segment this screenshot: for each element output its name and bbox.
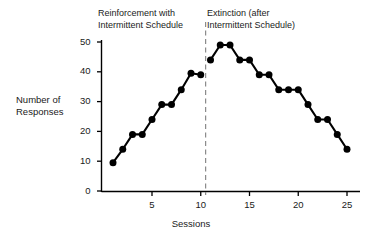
data-point [158,101,165,108]
data-point [217,41,224,48]
x-axis-title: Sessions [0,218,382,229]
data-point [285,86,292,93]
data-point [344,146,351,153]
data-point [256,71,263,78]
data-point [295,86,302,93]
data-point [334,131,341,138]
data-point [197,71,204,78]
x-tick-label-25: 25 [336,199,358,210]
data-point [266,71,273,78]
data-point [168,101,175,108]
data-point [149,116,156,123]
data-point [324,116,331,123]
data-point [227,41,234,48]
chart-figure: Reinforcement with Intermittent Schedule… [0,0,382,240]
data-point [129,131,136,138]
y-tick-label-30: 30 [69,95,91,106]
y-tick-label-50: 50 [69,36,91,47]
data-point [188,70,195,77]
y-tick-label-10: 10 [69,155,91,166]
data-point [246,56,253,63]
series-markers [110,41,351,166]
data-point [207,56,214,63]
x-tick-label-10: 10 [190,199,212,210]
y-tick-label-40: 40 [69,65,91,76]
data-point [236,56,243,63]
y-tick-label-0: 0 [69,185,91,196]
data-point [314,116,321,123]
x-tick-label-20: 20 [287,199,309,210]
data-point [275,86,282,93]
series-line-1 [211,45,348,149]
data-point [139,131,146,138]
data-point [178,86,185,93]
data-point [305,101,312,108]
x-tick-label-5: 5 [141,199,163,210]
data-point [110,159,117,166]
phase-label-reinforcement: Reinforcement with Intermittent Schedule [98,8,202,31]
phase-label-extinction: Extinction (after Intermittent Schedule) [207,8,327,31]
y-tick-label-20: 20 [69,125,91,136]
x-tick-label-15: 15 [239,199,261,210]
data-point [119,146,126,153]
series-polylines [113,45,347,163]
